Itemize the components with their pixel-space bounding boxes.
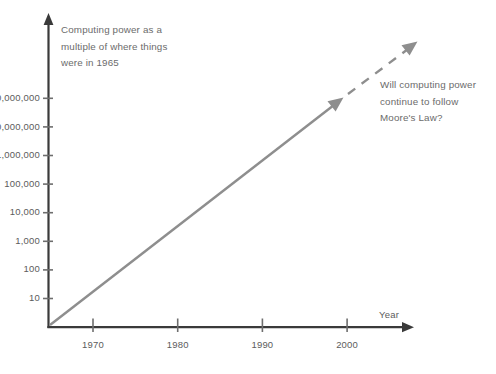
future-note-annotation: Will computing power continue to follow … bbox=[380, 77, 476, 127]
y-tick-label: 100,000 bbox=[0, 179, 40, 189]
future-note-line: Moore's Law? bbox=[380, 110, 476, 127]
y-axis-note-line: were in 1965 bbox=[61, 55, 168, 72]
y-axis-arrowhead bbox=[44, 13, 54, 25]
x-axis-title: Year bbox=[379, 309, 399, 320]
y-tick-label: 1,000,000 bbox=[0, 150, 40, 160]
moores-law-chart: 100,000,000 10,000,000 1,000,000 100,000… bbox=[0, 0, 496, 374]
y-axis-note-line: multiple of where things bbox=[61, 39, 168, 56]
y-axis-note-line: Computing power as a bbox=[61, 22, 168, 39]
trend-line-solid bbox=[50, 105, 334, 325]
x-tick-marks bbox=[93, 319, 347, 333]
x-tick-label: 1990 bbox=[237, 340, 287, 350]
x-axis-arrowhead bbox=[402, 322, 414, 332]
future-note-line: Will computing power bbox=[380, 77, 476, 94]
x-tick-label: 2000 bbox=[322, 340, 372, 350]
x-tick-label: 1970 bbox=[68, 340, 118, 350]
x-tick-label: 1980 bbox=[153, 340, 203, 350]
y-tick-label: 100 bbox=[0, 264, 40, 274]
y-tick-label: 10,000 bbox=[0, 207, 40, 217]
y-tick-label: 1,000 bbox=[0, 236, 40, 246]
y-tick-label: 10 bbox=[0, 293, 40, 303]
y-tick-label: 10,000,000 bbox=[0, 122, 40, 132]
y-axis-note-annotation: Computing power as a multiple of where t… bbox=[61, 22, 168, 72]
future-note-line: continue to follow bbox=[380, 94, 476, 111]
y-tick-label: 100,000,000 bbox=[0, 93, 40, 103]
